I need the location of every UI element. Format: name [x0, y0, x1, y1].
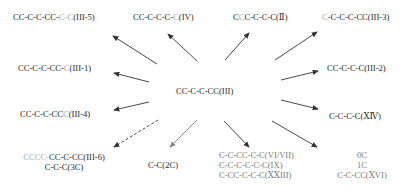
node-III-6-line: CCCC-CC-C-CC(III-6): [14, 152, 114, 162]
arrow-to-III-5: [113, 36, 157, 64]
node-XIV-part: C-C-C-C(ⅩⅣ): [329, 111, 381, 121]
node-III-5-part: CC-C-C-CC-: [13, 12, 59, 22]
node-II: CCC-C-C-C(Ⅱ): [233, 12, 288, 22]
arrow-to-IV: [168, 34, 197, 61]
node-II-part: C-C-C-C(Ⅱ): [244, 12, 287, 22]
arrow-to-III-6: [114, 120, 158, 147]
arrow-to-III-4: [114, 102, 149, 110]
node-VI-VII-group: C-C-CC-C-C(VI/VII) C-C-C-C-C-C(IX) C-CC-…: [219, 150, 294, 180]
node-3C-line: C-C-C(3C): [14, 162, 114, 172]
node-III-4-part: CC-C-C-CC: [20, 109, 63, 119]
center-node-III: CC-C-C-CC(III): [176, 86, 233, 96]
node-III-6-part: CC-C-CC(III-6): [49, 152, 105, 162]
node-XXIII-line: C-CC-C-C-C(ⅩⅩIII): [219, 170, 294, 180]
node-VI-VII-line: C-C-CC-C-C(VI/VII): [219, 150, 294, 160]
node-2C-part: C-C(2C): [148, 160, 178, 170]
node-1C-line: 1C: [330, 160, 394, 170]
node-IV-part: (IV): [179, 12, 194, 22]
node-III-6-faded: C-: [40, 152, 49, 162]
node-III-1: CC-C-C-CC-C(III-1): [18, 63, 91, 73]
arrow-to-XIV: [281, 100, 318, 109]
node-III-2: CC-C-C-C(III-2): [327, 63, 386, 73]
node-III-5-faded: C-C: [59, 12, 73, 22]
node-IV: CC-C-C-C-C(IV): [133, 12, 194, 22]
node-III-2-part: CC-C-C-C(III-2): [327, 63, 386, 73]
node-XVI-group: 0C 1C C-C-CC(ⅩVI): [330, 150, 394, 180]
node-XIV: C-C-C-C(ⅩⅣ): [329, 111, 381, 121]
node-2C: C-C(2C): [148, 160, 178, 170]
node-III-6-faded: CCC: [23, 152, 40, 162]
arrow-to-XVI: [272, 121, 317, 147]
arrow-to-VI-VII: [224, 121, 249, 147]
node-IX-line: C-C-C-C-C-C(IX): [219, 160, 294, 170]
node-III-1-part: (III-1): [70, 63, 91, 73]
node-III-3-part: -C-C-C-CC(III-3): [328, 12, 390, 22]
node-III-4-part: (III-4): [69, 109, 90, 119]
arrow-to-II: [225, 33, 249, 60]
node-IV-part: CC-C-C-C-: [133, 12, 173, 22]
node-0C-line: 0C: [330, 150, 394, 160]
node-XVI-line: C-C-CC(ⅩVI): [330, 170, 394, 180]
node-III-5: CC-C-C-CC-C-C(III-5): [13, 12, 95, 22]
node-III-6: CCCC-CC-C-CC(III-6) C-C-C(3C): [14, 152, 114, 172]
arrow-to-2C: [170, 120, 197, 147]
node-III-1-part: CC-C-C-CC-: [18, 63, 64, 73]
arrow-to-III-2: [281, 71, 318, 80]
node-III-5-part: (III-5): [73, 12, 94, 22]
arrow-to-III-3: [275, 32, 317, 60]
arrow-to-III-1: [114, 73, 149, 82]
node-III-3: C-C-C-C-CC(III-3): [322, 12, 389, 22]
node-III-4: CC-C-C-CCC(III-4): [20, 109, 90, 119]
